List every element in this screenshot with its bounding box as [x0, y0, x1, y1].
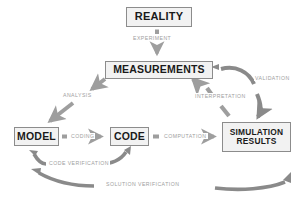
edge-label-coding: CODING — [70, 133, 95, 139]
node-reality-label: REALITY — [135, 11, 183, 23]
edge-label-code-verification: CODE VERIFICATION — [48, 160, 110, 166]
arrow-experiment — [155, 30, 159, 54]
diagram-arrows-layer — [0, 0, 308, 200]
node-simulation-results[interactable]: SIMULATION RESULTS — [222, 122, 291, 152]
edge-label-interpretation: INTERPRETATION — [194, 93, 247, 99]
arrow-validation — [211, 64, 261, 117]
edge-label-validation: VALIDATION — [254, 75, 291, 81]
edge-label-analysis: ANALYSIS — [62, 92, 93, 98]
node-model-label: MODEL — [17, 131, 56, 142]
node-code-label: CODE — [114, 131, 145, 142]
node-model[interactable]: MODEL — [14, 127, 59, 146]
edge-label-solution-verification: SOLUTION VERIFICATION — [105, 181, 180, 187]
node-measurements-label: MEASUREMENTS — [113, 64, 205, 75]
node-measurements[interactable]: MEASUREMENTS — [105, 61, 213, 79]
diagram-canvas: REALITY MEASUREMENTS MODEL CODE SIMULATI… — [0, 0, 308, 200]
node-code[interactable]: CODE — [110, 127, 149, 146]
edge-label-experiment: EXPERIMENT — [132, 35, 172, 41]
arrow-analysis — [50, 79, 105, 121]
node-simulation-results-label-line2: RESULTS — [237, 137, 277, 146]
edge-label-computation: COMPUTATION — [163, 133, 208, 139]
node-reality[interactable]: REALITY — [126, 7, 192, 27]
